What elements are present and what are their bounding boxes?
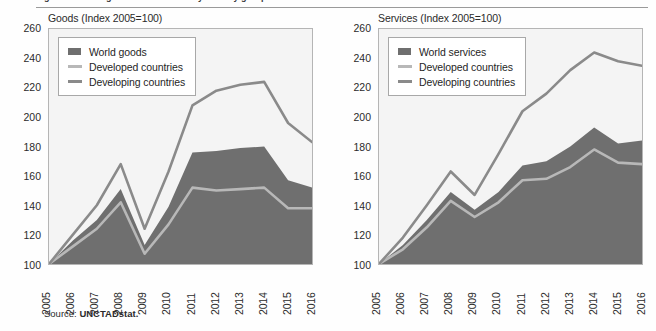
x-axis-services: 2005200620072008200920102011201220132014… xyxy=(378,267,643,315)
legend-swatch-icon xyxy=(67,48,82,55)
legend-label: World services xyxy=(419,46,486,58)
y-axis-tick: 160 xyxy=(23,170,41,182)
legend-item: World services xyxy=(397,44,515,59)
y-axis-tick: 120 xyxy=(23,229,41,241)
x-axis-tick: 2010 xyxy=(490,292,502,315)
x-axis-tick: 2015 xyxy=(611,292,623,315)
legend-line-icon xyxy=(67,80,82,83)
x-axis-tick: 2016 xyxy=(635,292,647,315)
y-axis-tick: 120 xyxy=(353,229,371,241)
y-axis-goods: 260240220200180160140120100 xyxy=(4,28,44,265)
y-axis-tick: 100 xyxy=(23,259,41,271)
legend-label: Developing countries xyxy=(419,76,515,88)
y-axis-services: 260240220200180160140120100 xyxy=(334,28,374,265)
x-axis-tick: 2008 xyxy=(442,292,454,315)
y-axis-tick: 180 xyxy=(353,141,371,153)
legend-item: Developing countries xyxy=(67,74,185,89)
x-axis-tick: 2011 xyxy=(515,293,527,315)
y-axis-tick: 240 xyxy=(23,52,41,64)
legend-line-icon xyxy=(397,80,412,83)
legend-item: World goods xyxy=(67,44,185,59)
legend-line-icon xyxy=(67,65,82,68)
y-axis-tick: 220 xyxy=(353,81,371,93)
panel-title-services: Services (Index 2005=100) xyxy=(378,12,501,24)
x-axis-tick: 2015 xyxy=(281,292,293,315)
x-axis-tick: 2014 xyxy=(587,292,599,315)
x-axis-tick: 2007 xyxy=(418,292,430,315)
y-axis-tick: 140 xyxy=(23,200,41,212)
y-axis-tick: 240 xyxy=(353,52,371,64)
x-axis-tick: 2016 xyxy=(305,292,317,315)
x-axis-tick: 2014 xyxy=(257,292,269,315)
y-axis-tick: 220 xyxy=(23,81,41,93)
x-axis-tick: 2013 xyxy=(563,292,575,315)
legend-line-icon xyxy=(397,65,412,68)
legend-item: Developed countries xyxy=(397,59,515,74)
legend-label: Developed countries xyxy=(419,61,513,73)
chart-panel-services: Services (Index 2005=100) 26024022020018… xyxy=(334,12,654,298)
figure-root: Figure: Trade in goods and services by c… xyxy=(0,0,656,331)
y-axis-tick: 200 xyxy=(23,111,41,123)
legend-label: Developed countries xyxy=(89,61,183,73)
y-axis-tick: 140 xyxy=(353,200,371,212)
source-organization: UNCTADstat. xyxy=(79,308,138,319)
y-axis-tick: 100 xyxy=(353,259,371,271)
y-axis-tick: 260 xyxy=(353,22,371,34)
x-axis-tick: 2006 xyxy=(394,292,406,315)
x-axis-tick: 2012 xyxy=(539,292,551,315)
legend-label: World goods xyxy=(89,46,147,58)
x-axis-tick: 2011 xyxy=(185,293,197,315)
y-axis-tick: 200 xyxy=(353,111,371,123)
truncated-figure-title: Figure: Trade in goods and services by c… xyxy=(36,0,648,6)
panel-title-goods: Goods (Index 2005=100) xyxy=(48,12,162,24)
y-axis-tick: 180 xyxy=(23,141,41,153)
legend-item: Developing countries xyxy=(397,74,515,89)
legend-label: Developing countries xyxy=(89,76,185,88)
x-axis-tick: 2010 xyxy=(160,292,172,315)
source-label: Source: xyxy=(44,308,77,319)
header-divider xyxy=(36,7,648,8)
x-axis-tick: 2005 xyxy=(370,292,382,315)
x-axis-tick: 2012 xyxy=(209,292,221,315)
plot-area-services: World services Developed countries Devel… xyxy=(378,28,643,265)
chart-panel-goods: Goods (Index 2005=100) 26024022020018016… xyxy=(4,12,324,298)
legend-swatch-icon xyxy=(397,48,412,55)
legend-services: World services Developed countries Devel… xyxy=(388,37,526,96)
y-axis-tick: 260 xyxy=(23,22,41,34)
y-axis-tick: 160 xyxy=(353,170,371,182)
series-area-world-services xyxy=(379,127,642,264)
x-axis-tick: 2013 xyxy=(233,292,245,315)
plot-area-goods: World goods Developed countries Developi… xyxy=(48,28,313,265)
x-axis-tick: 2009 xyxy=(466,292,478,315)
legend-item: Developed countries xyxy=(67,59,185,74)
legend-goods: World goods Developed countries Developi… xyxy=(58,37,196,96)
source-note: Source: UNCTADstat. xyxy=(44,308,138,319)
